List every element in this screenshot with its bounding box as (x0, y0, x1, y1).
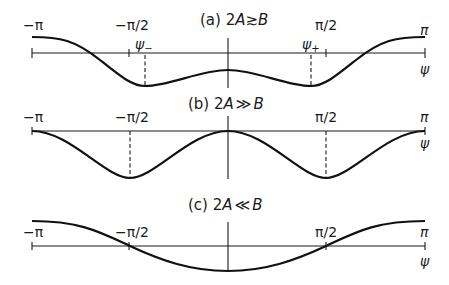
panel-c-title: (c) 2A≪B (188, 196, 263, 214)
axis-label-psi: ψ (420, 135, 430, 151)
label-neg-pi: −π (23, 17, 44, 33)
label-neg-pi: −π (23, 109, 44, 125)
panel-b-title: (b) 2A≫B (188, 95, 264, 113)
potential-diagram: (a) 2A≳B −π −π/2 π/2 π ψ− ψ+ ψ (b) 2A≫B … (0, 0, 449, 285)
axis-label-psi: ψ (420, 61, 430, 77)
label-pi: π (420, 224, 429, 240)
panel-c: (c) 2A≪B −π −π/2 π/2 π ψ (23, 196, 430, 272)
label-pi: π (420, 109, 429, 125)
panel-a: (a) 2A≳B −π −π/2 π/2 π ψ− ψ+ ψ (23, 11, 430, 88)
label-neg-pi: −π (23, 224, 44, 240)
label-half-pi: π/2 (315, 17, 337, 33)
label-half-pi: π/2 (315, 224, 337, 240)
label-neg-half-pi: −π/2 (115, 17, 149, 33)
panel-b: (b) 2A≫B −π −π/2 π/2 π ψ (23, 95, 430, 179)
panel-a-title: (a) 2A≳B (200, 11, 268, 29)
label-neg-half-pi: −π/2 (115, 109, 149, 125)
label-psi-minus: ψ− (135, 36, 153, 54)
label-neg-half-pi: −π/2 (115, 224, 149, 240)
axis-label-psi: ψ (420, 253, 430, 269)
label-psi-plus: ψ+ (302, 36, 320, 54)
label-pi: π (420, 22, 429, 38)
label-half-pi: π/2 (315, 109, 337, 125)
